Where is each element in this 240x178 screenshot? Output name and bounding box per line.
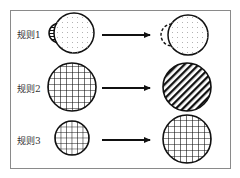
diagram-canvas xyxy=(0,0,240,178)
rule-1-left-shape xyxy=(49,13,94,53)
rule-3-left-shape xyxy=(55,121,89,155)
rule-3-right-shape xyxy=(163,115,211,163)
rule-2-left-shape xyxy=(48,63,96,111)
rule-1-right-shape xyxy=(161,15,208,55)
rule-2-right-shape xyxy=(163,63,211,111)
